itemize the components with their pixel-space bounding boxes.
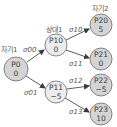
edge-label-s01: σ01 [24,89,37,97]
edge-label-s12: σ12 [69,77,83,85]
edge-p0-p11 [26,76,45,88]
node-value: 0 [99,59,104,68]
node-p21: P21 0 [90,48,112,70]
node-name: P0 [11,60,21,69]
node-name: P10 [49,36,63,45]
game-tree-diagram: 자기1 상대1 자기2 σ00 σ01 σ10 σ11 σ12 σ13 P0 0… [0,0,117,127]
node-p11: P11 −5 [45,81,67,103]
node-name: P21 [94,50,108,59]
level-label-self1: 자기1 [1,45,17,54]
node-name: P20 [94,16,108,25]
edge-label-s11: σ11 [69,60,82,68]
node-p10: P10 0 [45,34,67,56]
edge-label-s10: σ10 [69,26,83,34]
edge-p11-p22 [67,86,89,89]
node-p22: P22 −5 [90,74,112,96]
node-p0: P0 0 [4,57,28,81]
node-p20: P20 5 [90,14,112,36]
node-value: 0 [54,45,59,54]
node-value: 0 [14,69,19,78]
edge-label-s00: σ00 [23,46,37,54]
node-name: P22 [94,76,108,85]
node-value: 5 [99,25,104,34]
node-p23: P23 10 [90,103,112,125]
edge-label-s13: σ13 [69,108,82,116]
node-name: P23 [94,105,108,114]
node-value: −5 [95,85,106,94]
level-label-opponent1: 상대1 [46,25,62,34]
node-value: −5 [50,92,61,101]
node-name: P11 [49,83,63,92]
level-label-self2: 자기2 [92,4,108,13]
edge-p10-p21 [66,50,89,58]
node-value: 10 [96,114,106,123]
